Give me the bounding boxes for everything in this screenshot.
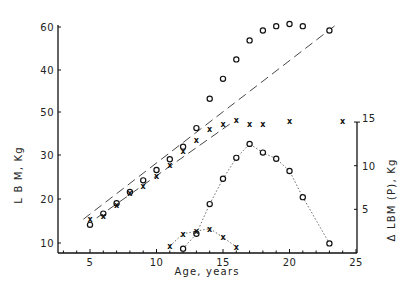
x-tick-label: 25 [349,257,363,268]
x-marker: x [181,230,187,239]
circle-marker [234,57,239,62]
x-marker: x [287,117,293,126]
circle-marker [274,24,279,29]
x-tick-label: 5 [87,257,94,268]
x-marker: x [181,147,187,156]
x-marker: x [234,116,240,125]
circle-marker [300,24,305,29]
x-marker: x [127,189,133,198]
y-left-tick-label: 60 [40,22,54,33]
y-left-axis-title: L B M, Kg [13,146,24,203]
y-right-tick-label: 15 [362,113,376,124]
x-marker: x [154,172,160,181]
y-left-tick-label: 40 [40,65,54,76]
dashed-reference-line [83,25,336,219]
x-tick-label: 20 [283,257,297,268]
circle-marker [247,141,252,146]
y-right-axis-title: Δ LBM (P), Kg [386,159,397,242]
x-marker: x [87,215,93,224]
circle-marker [274,156,279,161]
x-marker: x [220,233,226,242]
x-marker: x [114,201,120,210]
circle-marker [327,28,332,33]
x-marker: x [247,120,253,129]
y-left-tick-label: 50 [40,107,54,118]
x-marker: x [340,117,346,126]
data-points: xxxxxxxxxxxxxxxxxxxxxx [87,21,346,252]
circle-marker [287,168,292,173]
y-left-tick-label: 10 [40,238,54,249]
dotted-curve [183,144,329,249]
x-marker: x [194,136,200,145]
y-right-tick-label: 5 [362,204,369,215]
circle-marker [327,241,332,246]
circle-marker [260,28,265,33]
lbm-age-chart: xxxxxxxxxxxxxxxxxxxxxx 60405030201051015… [0,0,410,289]
x-marker: x [260,120,266,129]
x-axis-title: Age, years [174,266,239,277]
reference-lines [83,25,336,249]
x-tick-label: 10 [150,257,164,268]
x-marker: x [220,120,226,129]
circle-marker [234,155,239,160]
circle-marker [247,38,252,43]
x-marker: x [207,125,213,134]
x-marker: x [194,227,200,236]
x-marker: x [207,225,213,234]
circle-marker [207,202,212,207]
circle-marker [207,96,212,101]
x-marker: x [101,212,107,221]
x-marker: x [234,243,240,252]
circle-marker [220,76,225,81]
x-marker: x [141,182,147,191]
y-left-tick-label: 30 [40,150,54,161]
circle-marker [220,176,225,181]
circle-marker [287,21,292,26]
y-left-tick-label: 20 [40,194,54,205]
circle-marker [260,150,265,155]
y-right-tick-label: 10 [362,161,376,172]
x-marker: x [167,242,173,251]
circle-marker [181,246,186,251]
circle-marker [194,125,199,130]
x-marker: x [167,161,173,170]
circle-marker [300,195,305,200]
